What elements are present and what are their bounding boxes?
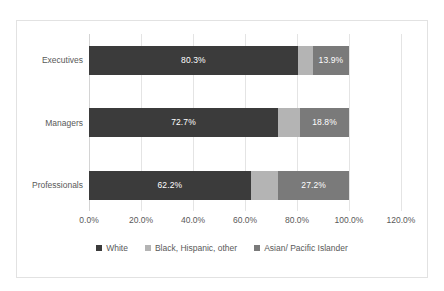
bar-segment — [298, 46, 313, 75]
x-axis-tick-label: 40.0% — [181, 215, 205, 225]
bar-data-label: 80.3% — [181, 56, 206, 65]
x-axis-tick-label: 60.0% — [233, 215, 257, 225]
gridline — [401, 34, 402, 211]
x-axis-tick-label: 100.0% — [335, 215, 364, 225]
y-axis-labels: Executives Managers Professionals — [17, 34, 83, 211]
bar-data-label: 72.7% — [171, 118, 196, 127]
y-axis-tick-label: Professionals — [32, 180, 83, 190]
bar-segment: 72.7% — [89, 108, 278, 137]
legend-label: Black, Hispanic, other — [155, 243, 237, 253]
x-axis-tick-label: 80.0% — [285, 215, 309, 225]
bar-segment: 13.9% — [313, 46, 349, 75]
bar-group: 80.3%13.9% — [89, 46, 401, 75]
stacked-bar: 80.3%13.9% — [89, 46, 349, 75]
bar-group: 72.7%18.8% — [89, 108, 401, 137]
stacked-bar: 62.2%27.2% — [89, 171, 349, 200]
x-axis-tick-label: 0.0% — [79, 215, 98, 225]
x-axis-tick-label: 120.0% — [387, 215, 416, 225]
legend-label: Asian/ Pacific Islander — [264, 243, 348, 253]
bar-segment: 62.2% — [89, 171, 251, 200]
plot-area: 80.3%13.9%72.7%18.8%62.2%27.2% — [89, 34, 401, 211]
bar-group: 62.2%27.2% — [89, 171, 401, 200]
legend-swatch-icon — [254, 245, 260, 251]
legend-item[interactable]: White — [96, 243, 128, 253]
bar-segment — [251, 171, 279, 200]
bar-data-label: 27.2% — [301, 181, 326, 190]
bar-data-label: 18.8% — [312, 118, 337, 127]
chart-legend: WhiteBlack, Hispanic, otherAsian/ Pacifi… — [17, 243, 427, 253]
stacked-bar: 72.7%18.8% — [89, 108, 349, 137]
legend-swatch-icon — [96, 245, 102, 251]
bar-segment: 80.3% — [89, 46, 298, 75]
x-axis-labels: 0.0%20.0%40.0%60.0%80.0%100.0%120.0% — [89, 215, 401, 229]
legend-item[interactable]: Asian/ Pacific Islander — [254, 243, 348, 253]
x-axis-tick-label: 20.0% — [129, 215, 153, 225]
chart-container: Executives Managers Professionals 80.3%1… — [16, 20, 428, 278]
bar-data-label: 62.2% — [158, 181, 183, 190]
legend-label: White — [106, 243, 128, 253]
bar-segment — [278, 108, 300, 137]
legend-swatch-icon — [145, 245, 151, 251]
bar-segment: 18.8% — [300, 108, 349, 137]
y-axis-tick-label: Managers — [45, 118, 83, 128]
bar-segment: 27.2% — [278, 171, 349, 200]
legend-item[interactable]: Black, Hispanic, other — [145, 243, 237, 253]
bar-data-label: 13.9% — [319, 56, 344, 65]
y-axis-tick-label: Executives — [42, 55, 83, 65]
